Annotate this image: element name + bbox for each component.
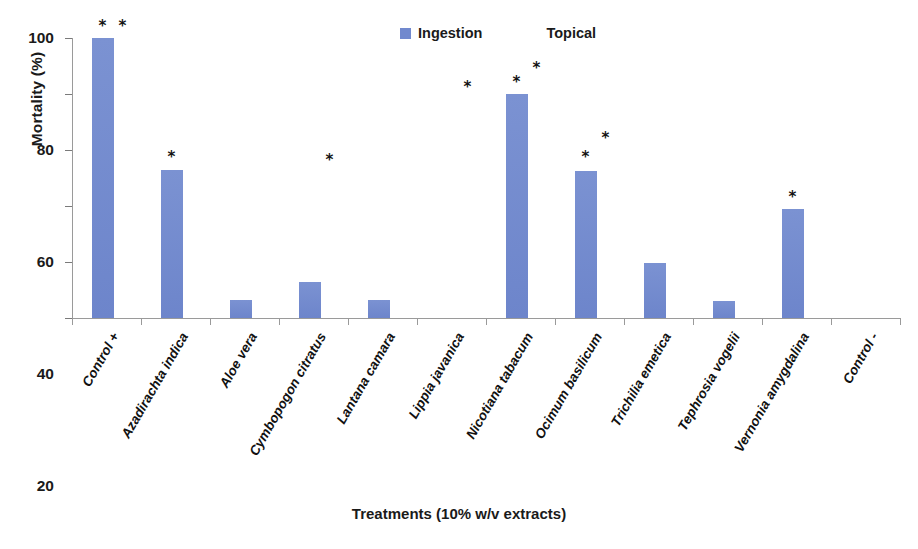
- bar-aloe-vera[interactable]: [230, 300, 252, 318]
- significance-asterisk: *: [168, 150, 176, 165]
- x-tick-mark: [279, 318, 280, 325]
- y-tick-label: 100: [28, 29, 54, 47]
- y-tick-mark: 20: [65, 262, 72, 263]
- x-tick-label-text: Trichilia emetica: [608, 330, 674, 429]
- y-tick-mark: 40: [65, 206, 72, 207]
- x-tick-label-text: Cymbopogon citratus: [246, 330, 329, 458]
- legend-swatch-ingestion: [400, 28, 411, 39]
- x-tick-label-text: Vernonia amygdalina: [731, 330, 812, 455]
- significance-asterisk: *: [119, 19, 127, 34]
- y-tick-mark: 100: [65, 38, 72, 39]
- x-tick-label-text: Azadirachta indica: [118, 330, 191, 441]
- bar-trichilia-emetica[interactable]: [644, 263, 666, 318]
- bar-control[interactable]: [92, 38, 114, 318]
- y-tick-mark: 60: [65, 150, 72, 151]
- y-tick-label: 60: [37, 253, 54, 271]
- significance-asterisk: *: [602, 131, 610, 146]
- significance-asterisk: *: [533, 61, 541, 76]
- significance-asterisk: *: [789, 190, 797, 205]
- bar-tephrosia-vogelii[interactable]: [713, 301, 735, 318]
- y-tick-label: 20: [37, 477, 54, 495]
- x-tick-mark: [486, 318, 487, 325]
- significance-asterisk: *: [582, 150, 590, 165]
- x-tick-mark: [348, 318, 349, 325]
- x-tick-mark: [555, 318, 556, 325]
- x-tick-mark: [693, 318, 694, 325]
- significance-asterisk: *: [513, 75, 521, 90]
- x-axis-title: Treatments (10% w/v extracts): [0, 505, 918, 522]
- significance-asterisk: *: [326, 153, 334, 168]
- y-tick-label: 80: [37, 141, 54, 159]
- significance-asterisk: *: [99, 19, 107, 34]
- x-tick-label-text: Lippia javanica: [405, 330, 466, 421]
- x-tick-label-text: Control -: [839, 330, 880, 386]
- x-tick-label-text: Ocimum basilicum: [531, 330, 604, 441]
- x-tick-label-text: Lantana camara: [333, 330, 397, 427]
- x-tick-mark: [417, 318, 418, 325]
- bar-nicotiana-tabacum[interactable]: [506, 94, 528, 318]
- x-tick-mark: [624, 318, 625, 325]
- bar-cymbopogon-citratus[interactable]: [299, 282, 321, 318]
- x-tick-mark: [762, 318, 763, 325]
- significance-asterisk: *: [464, 80, 472, 95]
- x-tick-label-text: Control +: [79, 330, 122, 389]
- x-tick-mark: [900, 318, 901, 325]
- y-tick-mark: 0: [65, 318, 72, 319]
- y-tick-mark: 80: [65, 94, 72, 95]
- x-tick-label-text: Aloe vera: [216, 330, 259, 390]
- y-tick-label: 40: [37, 365, 54, 383]
- x-tick-mark: [72, 318, 73, 325]
- x-tick-mark: [141, 318, 142, 325]
- x-tick-label-text: Nicotiana tabacum: [462, 330, 535, 441]
- bar-lantana-camara[interactable]: [368, 300, 390, 318]
- bar-azadirachta-indica[interactable]: [161, 170, 183, 318]
- x-tick-mark: [210, 318, 211, 325]
- mortality-bar-chart: Mortality (%) Ingestion Topical 02040608…: [0, 0, 918, 549]
- legend-swatch-topical: [528, 28, 539, 39]
- x-tick-label-text: Tephrosia vogelii: [674, 330, 742, 433]
- x-tick-mark: [831, 318, 832, 325]
- y-axis-line: [72, 38, 73, 318]
